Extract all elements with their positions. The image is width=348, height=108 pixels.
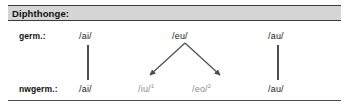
phoneme-nwgermanic-iu: /iu/1 <box>138 84 154 94</box>
bottom-rule <box>8 100 341 101</box>
phoneme-nwgermanic-iu-text: /iu/ <box>138 84 151 94</box>
phoneme-germanic-ai: /ai/ <box>79 31 92 41</box>
phoneme-nwgermanic-au: /au/ <box>268 84 284 94</box>
branching-arrows <box>130 42 240 84</box>
header-band: Diphthonge: <box>8 5 341 21</box>
connector-ai-vertical-bar <box>87 45 89 80</box>
phoneme-nwgermanic-eo-text: /eo/ <box>192 84 208 94</box>
phoneme-nwgermanic-ai: /ai/ <box>79 84 92 94</box>
connector-au-vertical-bar <box>277 45 279 80</box>
page-title: Diphthonge: <box>12 8 69 19</box>
arrow-eu-to-eo <box>185 43 220 75</box>
row-label-northwest-germanic: nwgerm.: <box>19 84 58 94</box>
phoneme-nwgermanic-eo: /eo/2 <box>192 84 211 94</box>
diphthongs-figure: Diphthonge: germ.: nwgerm.: /ai/ /eu/ /a… <box>0 0 348 108</box>
phoneme-germanic-eu: /eu/ <box>172 31 188 41</box>
row-label-germanic: germ.: <box>19 31 46 41</box>
phoneme-germanic-au: /au/ <box>268 31 284 41</box>
arrow-eu-to-iu <box>150 43 185 75</box>
